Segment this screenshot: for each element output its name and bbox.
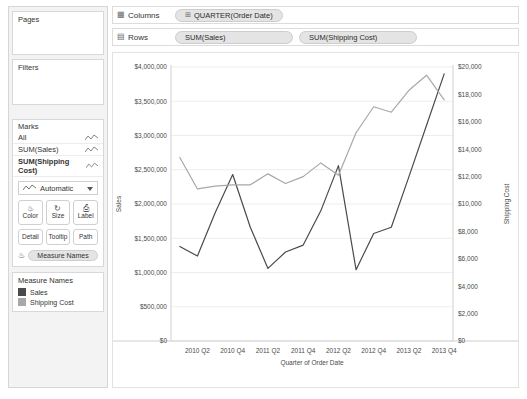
legend-item-sales[interactable]: Sales [13,287,103,297]
label-button-label: Label [78,213,94,220]
mark-type-label: Automatic [40,184,73,193]
x-axis-tick-label: 2012 Q4 [361,347,386,355]
tooltip-button[interactable]: Tooltip [46,229,71,245]
pages-shelf[interactable]: Pages [12,11,104,55]
marks-buttons-row1: ♨ Color ↻ Size ⎙ Label [13,198,103,227]
marks-row-sum-shipping-cost[interactable]: SUM(Shipping Cost) [13,156,103,177]
marks-row-label: SUM(Shipping Cost) [18,157,86,175]
mark-type-dropdown[interactable]: Automatic [18,181,98,195]
pill-sum-sales[interactable]: SUM(Sales) [175,31,293,44]
left-axis-tick-label: $3,500,000 [134,98,167,105]
columns-shelf[interactable]: ▦ Columns ⊞ QUARTER(Order Date) [112,6,519,24]
path-button-label: Path [79,234,92,241]
x-axis-tick-label: 2011 Q2 [256,347,281,355]
right-axis: $0$2,000$4,000$6,000$8,000$10,000$12,000… [458,63,511,344]
right-axis-tick-label: $14,000 [458,146,482,153]
rows-grid-icon: ▤ [117,33,125,41]
legend-item-label: Sales [30,289,48,296]
sparkline-icon [85,134,98,142]
detail-button-label: Detail [22,234,39,241]
marks-title: Marks [13,120,103,132]
left-axis-tick-label: $3,000,000 [134,132,167,139]
x-axis: 2010 Q22010 Q42011 Q22011 Q42012 Q22012 … [185,347,457,367]
x-axis-title: Quarter of Order Date [280,359,344,367]
size-button-label: Size [52,213,65,220]
left-axis-tick-label: $1,500,000 [134,235,167,242]
columns-shelf-label-wrap: ▦ Columns [117,11,175,20]
legend-swatch-icon [18,288,26,296]
marks-row-label: SUM(Sales) [18,145,58,154]
sparkline-icon [85,146,98,154]
right-axis-tick-label: $0 [458,337,466,344]
marks-buttons-row2: Detail Tooltip Path [13,227,103,247]
left-axis-title: Sales [115,195,122,212]
detail-button[interactable]: Detail [18,229,43,245]
left-axis-tick-label: $0 [160,337,168,344]
x-axis-tick-label: 2012 Q2 [326,347,351,355]
tableau-worksheet: Pages Filters Marks All SUM(Sales) SUM(S… [0,0,527,399]
size-button[interactable]: ↻ Size [46,200,71,225]
columns-shelf-label: Columns [128,11,160,20]
series-lines [180,74,444,270]
dual-axis-line-chart[interactable]: $0$500,000$1,000,000$1,500,000$2,000,000… [113,53,518,387]
left-axis-tick-label: $4,000,000 [134,63,167,70]
tooltip-button-label: Tooltip [49,234,68,241]
expand-plus-icon[interactable]: ⊞ [185,11,191,19]
shelf-container: ▦ Columns ⊞ QUARTER(Order Date) ▤ Rows S… [112,6,519,50]
left-axis: $0$500,000$1,000,000$1,500,000$2,000,000… [115,63,167,344]
chart-canvas[interactable]: $0$500,000$1,000,000$1,500,000$2,000,000… [112,52,519,388]
rows-shelf-label: Rows [128,33,148,42]
marks-row-all[interactable]: All [13,132,103,144]
filters-title: Filters [13,60,103,74]
pill-quarter-order-date[interactable]: ⊞ QUARTER(Order Date) [175,9,283,22]
right-axis-tick-label: $18,000 [458,91,482,98]
series-line-shipping-cost[interactable] [180,75,444,189]
legend-swatch-icon [18,298,26,306]
x-axis-tick-label: 2010 Q2 [185,347,210,355]
marks-card: Marks All SUM(Sales) SUM(Shipping Cost) [12,119,104,267]
sidebar: Pages Filters Marks All SUM(Sales) SUM(S… [8,6,108,388]
right-axis-tick-label: $6,000 [458,255,478,262]
x-axis-tick-label: 2010 Q4 [220,347,245,355]
pill-label: SUM(Sales) [185,33,225,42]
right-axis-tick-label: $8,000 [458,228,478,235]
left-axis-tick-label: $1,000,000 [134,269,167,276]
series-line-sales[interactable] [180,74,444,270]
right-axis-tick-label: $12,000 [458,173,482,180]
legend-item-label: Shipping Cost [30,299,74,306]
measure-names-pill[interactable]: Measure Names [28,250,98,261]
rows-shelf-label-wrap: ▤ Rows [117,33,175,42]
right-axis-tick-label: $10,000 [458,200,482,207]
color-button-label: Color [23,213,39,220]
right-axis-tick-label: $16,000 [458,118,482,125]
left-axis-tick-label: $2,000,000 [134,200,167,207]
rows-shelf[interactable]: ▤ Rows SUM(Sales) SUM(Shipping Cost) [112,28,519,46]
right-axis-tick-label: $2,000 [458,310,478,317]
line-mark-icon [23,184,36,192]
label-button[interactable]: ⎙ Label [73,200,98,225]
right-axis-tick-label: $20,000 [458,63,482,70]
legend-title: Measure Names [13,273,103,287]
color-icon: ♨ [18,251,25,260]
filters-shelf[interactable]: Filters [12,59,104,105]
marks-row-sum-sales[interactable]: SUM(Sales) [13,144,103,156]
pill-label: SUM(Shipping Cost) [309,33,377,42]
chevron-down-icon [87,187,93,191]
x-axis-tick-label: 2013 Q4 [432,347,457,355]
x-axis-tick-label: 2013 Q2 [396,347,421,355]
pill-sum-shipping-cost[interactable]: SUM(Shipping Cost) [299,31,417,44]
pages-title: Pages [13,12,103,26]
pill-label: QUARTER(Order Date) [194,11,273,20]
marks-row-label: All [18,133,26,142]
legend-item-shipping-cost[interactable]: Shipping Cost [13,297,103,307]
left-axis-tick-label: $500,000 [140,303,167,310]
columns-grid-icon: ▦ [117,11,125,19]
color-button[interactable]: ♨ Color [18,200,43,225]
x-axis-tick-label: 2011 Q4 [291,347,316,355]
right-axis-title: Shipping Cost [503,184,511,225]
left-axis-tick-label: $2,500,000 [134,166,167,173]
marks-measure-names-row: ♨ Measure Names [13,247,103,266]
path-button[interactable]: Path [73,229,98,245]
sparkline-icon [86,162,98,170]
color-legend: Measure Names Sales Shipping Cost [12,272,104,312]
